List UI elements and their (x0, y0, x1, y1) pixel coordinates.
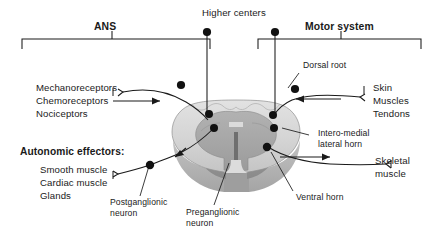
higher-center-dot-right (271, 28, 279, 36)
effector-item-smooth-muscle: Smooth muscle (40, 164, 107, 176)
target-item-tendons: Tendons (373, 108, 410, 120)
skeletal-muscle-label-line2: muscle (375, 168, 406, 180)
neuron-cell-body-dots (146, 28, 299, 169)
effector-item-cardiac-muscle: Cardiac muscle (40, 177, 108, 189)
intero-medial-lateral-horn-label-line1: Intero-medial (318, 128, 369, 138)
skeletal-muscle-label-line1: Skeletal (375, 155, 410, 167)
effector-item-glands: Glands (40, 190, 71, 202)
ventral-horn-label: Ventral horn (296, 192, 344, 202)
higher-center-dot-left (203, 28, 211, 36)
higher-centers-tracts (207, 32, 275, 114)
postganglionic-neuron-label-line1: Postganglionic (110, 197, 167, 207)
postganglionic-neuron-label-line2: neuron (110, 208, 137, 218)
motor-system-bracket (258, 31, 421, 49)
somatic-motor-arrow (280, 154, 330, 161)
ans-bracket-label: ANS (94, 21, 116, 33)
receptor-item-mechanoreceptors: Mechanoreceptors (36, 82, 117, 94)
receptor-item-nociceptors: Nociceptors (36, 108, 88, 120)
afferent-arrow-left (113, 98, 160, 105)
autonomic-effectors-title: Autonomic effectors: (20, 146, 124, 158)
ans-bracket (22, 31, 210, 49)
afferent-pathway-left (118, 89, 208, 120)
afferent-pathway-right (274, 94, 365, 115)
motor-system-bracket-label: Motor system (305, 21, 374, 33)
annotation-lines-layer (0, 0, 441, 240)
higher-centers-label: Higher centers (202, 7, 266, 19)
receptor-item-chemoreceptors: Chemoreceptors (36, 95, 108, 107)
dorsal-root-ganglion-dot (291, 85, 299, 93)
dorsal-horn-dot-left (205, 110, 213, 118)
autonomic-efferent-pathway (113, 128, 214, 177)
preganglionic-neuron-label-line1: Preganglionic (186, 207, 239, 217)
afferent-arrow-right (296, 96, 341, 103)
dorsal-horn-dot-right (269, 111, 277, 119)
diagram-figure: ANS Motor system Higher centers Mechanor… (0, 0, 441, 240)
dorsal-root-label: Dorsal root (303, 60, 346, 70)
target-item-muscles: Muscles (373, 95, 409, 107)
target-item-skin: Skin (373, 82, 392, 94)
intero-medial-lateral-horn-label-line2: lateral horn (318, 139, 362, 149)
sensory-neuron-dot-left (177, 81, 185, 89)
lateral-horn-dot-left (210, 124, 218, 132)
lateral-horn-dot-right (270, 124, 278, 132)
ventral-horn-dot (263, 143, 271, 151)
preganglionic-neuron-label-line2: neuron (186, 218, 213, 228)
postganglionic-ganglion-dot (146, 161, 154, 169)
